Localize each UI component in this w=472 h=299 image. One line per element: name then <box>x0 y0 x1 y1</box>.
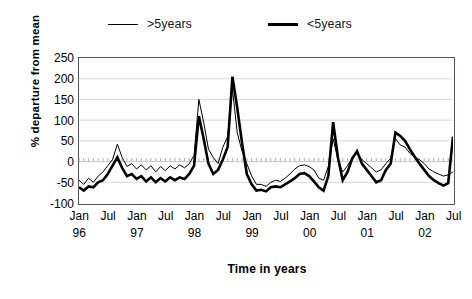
chart-legend: >5years <5years <box>0 14 472 40</box>
y-tick-label: -50 <box>2 177 74 189</box>
y-tick-label: 50 <box>2 135 74 147</box>
legend-label-gt5years: >5years <box>147 18 192 31</box>
legend-entry-lt5years: <5years <box>268 14 352 34</box>
series-line-lt5years <box>79 77 453 192</box>
y-tick-label: 200 <box>2 73 74 85</box>
x-tick-month: Jul <box>433 210 472 223</box>
plot-area <box>78 57 455 205</box>
x-tick-year: 00 <box>289 227 331 240</box>
legend-label-lt5years: <5years <box>307 18 352 31</box>
x-tick-year: 02 <box>404 227 446 240</box>
x-tick-year: 97 <box>116 227 158 240</box>
y-axis-tick-labels: 250200150100500-50-100 <box>0 57 74 205</box>
x-tick-year: 99 <box>231 227 273 240</box>
series-line-gt5years <box>79 89 453 186</box>
x-axis-tick-labels: Jan96JulJan97JulJan98JulJan99JulJan00Jul… <box>78 210 455 256</box>
legend-line-swatch-lt5years <box>268 19 298 29</box>
chart-figure: >5years <5years % departure from mean 25… <box>0 0 472 299</box>
y-tick-label: 250 <box>2 52 74 64</box>
y-tick-label: 0 <box>2 156 74 168</box>
series-plot <box>79 58 453 203</box>
y-tick-label: 150 <box>2 94 74 106</box>
x-tick-year: 01 <box>346 227 388 240</box>
x-tick-year: 98 <box>174 227 216 240</box>
x-axis-title: Time in years <box>78 262 456 276</box>
legend-entry-gt5years: >5years <box>108 14 192 34</box>
legend-line-swatch-gt5years <box>108 19 138 29</box>
x-tick-label: Jul <box>433 210 472 223</box>
y-tick-label: 100 <box>2 115 74 127</box>
y-tick-label: -100 <box>2 198 74 210</box>
x-tick-year: 96 <box>58 227 100 240</box>
